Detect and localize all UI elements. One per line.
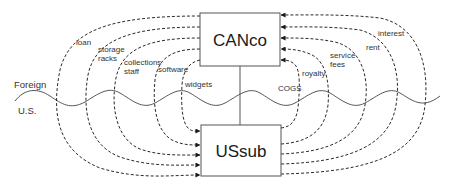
canco-label: CANco <box>213 31 267 50</box>
label-widgets: widgets <box>184 80 212 89</box>
transfer-pricing-diagram: CANco USsub Foreign U.S. loan storage ra… <box>0 0 450 194</box>
label-cogs: COGS <box>278 84 302 93</box>
region-us-label: U.S. <box>18 105 36 116</box>
flow-rent <box>281 27 398 164</box>
label-storage: storage <box>98 45 125 54</box>
entity-ussub: USsub <box>201 125 281 176</box>
flow-collections-staff <box>114 38 200 155</box>
flow-cogs <box>281 60 299 128</box>
label-service: service <box>330 51 356 60</box>
label-collections: collections <box>124 58 161 67</box>
label-racks: racks <box>98 54 117 63</box>
label-software: software <box>158 65 189 74</box>
label-rent: rent <box>366 43 381 52</box>
ussub-label: USsub <box>215 142 266 161</box>
label-fees: fees <box>330 60 345 69</box>
label-interest: interest <box>378 29 405 38</box>
flow-royalty <box>281 49 328 144</box>
label-staff: staff <box>124 67 140 76</box>
border-wave-line <box>15 90 440 105</box>
entity-canco: CANco <box>200 13 280 66</box>
label-loan: loan <box>76 38 91 47</box>
region-foreign-label: Foreign <box>14 79 46 90</box>
label-royalty: royalty <box>302 69 326 78</box>
